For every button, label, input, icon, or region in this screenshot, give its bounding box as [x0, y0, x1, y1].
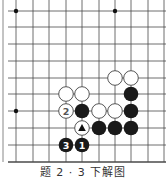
- black-stone: [124, 104, 139, 119]
- white-stone: [108, 71, 123, 86]
- black-stone: [75, 104, 90, 119]
- move-number-label: 1: [79, 140, 86, 151]
- white-stone: [108, 104, 123, 119]
- black-stone: [124, 121, 139, 136]
- black-stone: [124, 87, 139, 102]
- black-stone: [92, 121, 107, 136]
- star-point: [14, 9, 18, 13]
- go-board: 231: [0, 0, 166, 165]
- white-stone: [59, 87, 74, 102]
- diagram-caption: 题 2 · 3 下解图: [0, 166, 166, 178]
- white-stone: [124, 71, 139, 86]
- black-stone: [108, 121, 123, 136]
- move-number-label: 2: [63, 106, 70, 117]
- star-point: [113, 9, 117, 13]
- white-stone: [92, 104, 107, 119]
- move-number-label: 3: [63, 140, 70, 151]
- star-point: [14, 109, 18, 113]
- white-stone: [75, 87, 90, 102]
